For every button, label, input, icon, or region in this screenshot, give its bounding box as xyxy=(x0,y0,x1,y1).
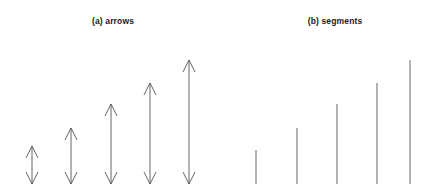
figure-canvas: (a) arrows (b) segments xyxy=(0,0,443,194)
segment-group xyxy=(256,60,410,184)
arrow-group xyxy=(26,60,195,184)
double-arrow xyxy=(144,83,156,184)
glyph-layer xyxy=(0,0,443,194)
double-arrow xyxy=(65,128,77,184)
double-arrow xyxy=(26,146,38,184)
double-arrow xyxy=(183,60,195,184)
double-arrow xyxy=(105,104,117,184)
